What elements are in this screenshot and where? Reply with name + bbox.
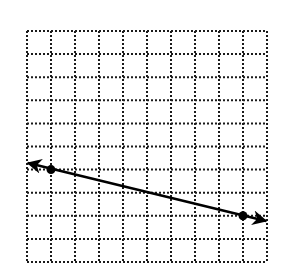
- point-marker: [239, 211, 248, 220]
- point-marker: [47, 165, 56, 174]
- dotted-grid: [27, 31, 267, 262]
- coordinate-grid-diagram: [0, 0, 286, 270]
